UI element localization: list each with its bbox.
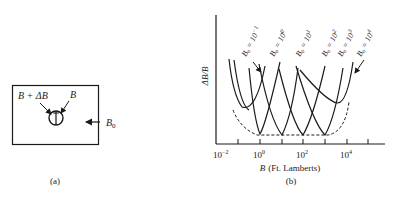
label-b-plus-delta: B + ΔB bbox=[18, 90, 48, 101]
caption-b: (b) bbox=[286, 176, 297, 186]
x-axis-label: B(Ft. Lamberts) bbox=[260, 163, 321, 173]
curve-label: B₀ = 104 bbox=[354, 28, 376, 57]
tick-label: 104 bbox=[340, 149, 352, 160]
label-b: B bbox=[70, 89, 76, 100]
label-b0: B0 bbox=[106, 117, 116, 130]
curve-label: B₀ = 100 bbox=[267, 28, 289, 57]
curve-label: B₀ = 101 bbox=[293, 28, 315, 57]
x-ticks bbox=[238, 139, 368, 144]
curve-b0-1e1 bbox=[259, 64, 298, 135]
curve-label: B₀ = 10−1 bbox=[239, 25, 263, 58]
curve-label: B₀ = 103 bbox=[335, 28, 357, 57]
curve-labels: B₀ = 10−1 B₀ = 100 B₀ = 101 B₀ = 102 B₀ … bbox=[239, 25, 376, 58]
panel-b: 10−2 100 102 104 B(Ft. Lamberts) (b) ΔB/… bbox=[200, 15, 385, 186]
caption-a: (a) bbox=[50, 176, 60, 186]
curve-b0-1e3 bbox=[296, 66, 343, 135]
curve-b0-1e4 bbox=[300, 62, 353, 103]
arrow-b bbox=[61, 101, 69, 113]
curves bbox=[229, 59, 353, 135]
tick-label: 10−2 bbox=[213, 149, 228, 160]
figure: B + ΔB B B0 (a) 10−2 100 102 104 B(Ft. L… bbox=[0, 0, 399, 199]
panel-a: B + ΔB B B0 (a) bbox=[13, 86, 117, 187]
y-axis-label: ΔB/B bbox=[200, 66, 210, 86]
tick-label: 102 bbox=[296, 149, 308, 160]
curve-b0-1e-1b bbox=[234, 60, 249, 110]
arrow-b-plus-delta bbox=[40, 103, 51, 114]
test-spot-icon bbox=[49, 111, 63, 125]
tick-label: 100 bbox=[253, 149, 265, 160]
arrow-label-b0-1e4 bbox=[355, 60, 364, 73]
